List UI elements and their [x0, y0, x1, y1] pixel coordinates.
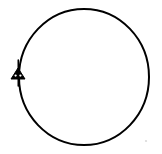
figure-canvas: Circle with triangular marker: [0, 0, 162, 154]
scan-speck: [145, 140, 147, 142]
marker-eye-left: [14, 74, 16, 76]
diagram-svg: [0, 0, 162, 154]
marker-eye-right: [19, 74, 21, 76]
